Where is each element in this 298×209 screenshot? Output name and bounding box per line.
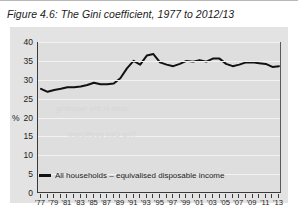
gridline xyxy=(38,155,280,156)
x-axis-tick-label: '93 xyxy=(141,198,151,207)
gridline xyxy=(38,42,280,43)
y-axis-tick-label: 0 xyxy=(28,188,33,198)
page-bleed-through: gnitroper eht ni desu xyxy=(56,104,129,113)
x-axis-tick-label: '11 xyxy=(260,198,269,207)
y-axis-tick-label: 25 xyxy=(24,94,33,104)
gridline xyxy=(38,99,280,100)
y-axis-tick-label: 35 xyxy=(24,56,33,66)
legend-line-swatch xyxy=(39,174,51,177)
x-axis-tick-label: '77 xyxy=(35,198,45,207)
x-axis-tick-label: '83 xyxy=(75,198,85,207)
x-axis-tick-label: '01 xyxy=(194,198,204,207)
x-axis-tick xyxy=(258,194,259,198)
x-axis-tick-label: '13 xyxy=(273,198,283,207)
figure-title: Figure 4.6: The Gini coefficient, 1977 t… xyxy=(7,8,234,20)
x-axis-tick-label: '95 xyxy=(154,198,164,207)
plot-inner: gnitroper eht ni desu tneiciffeoc iniG e… xyxy=(38,42,280,192)
page-bleed-through-2: tneiciffeoc iniG ehT xyxy=(68,130,136,139)
x-axis-tick-label: '09 xyxy=(247,198,257,207)
figure-container: Figure 4.6: The Gini coefficient, 1977 t… xyxy=(0,0,298,209)
gridline xyxy=(38,61,280,62)
x-axis-tick-label: '97 xyxy=(167,198,177,207)
chart-legend: All households – equivalised disposable … xyxy=(39,171,224,180)
gini-line-path xyxy=(41,54,279,92)
y-axis-tick-label: 5 xyxy=(28,169,33,179)
x-axis-tick-label: '03 xyxy=(207,198,217,207)
y-axis-tick-label: 30 xyxy=(24,75,33,85)
x-axis-tick-label: '07 xyxy=(233,198,243,207)
gridline xyxy=(38,118,280,119)
y-axis-tick-label: 20 xyxy=(24,113,33,123)
x-axis-ticks: '77'79'81'83'85'87'89'91'93'95'97'99'01'… xyxy=(37,194,281,209)
x-axis-tick-label: '91 xyxy=(128,198,138,207)
x-axis-tick-label: '79 xyxy=(48,198,58,207)
y-axis-unit-label: % xyxy=(12,113,20,123)
x-axis-tick-label: '05 xyxy=(220,198,230,207)
x-axis-tick-label: '89 xyxy=(114,198,124,207)
x-axis-tick-label: '87 xyxy=(101,198,111,207)
y-axis-tick-label: 15 xyxy=(24,131,33,141)
y-axis-tick-label: 10 xyxy=(24,150,33,160)
x-axis-tick-label: '85 xyxy=(88,198,98,207)
gridline xyxy=(38,80,280,81)
y-axis-tick-label: 40 xyxy=(24,37,33,47)
legend-label: All households – equivalised disposable … xyxy=(55,171,224,180)
x-axis-tick-label: '99 xyxy=(180,198,190,207)
chart-panel: 0510152025303540 % gnitroper eht ni desu… xyxy=(10,27,288,203)
x-axis-tick-label: '81 xyxy=(61,198,71,207)
